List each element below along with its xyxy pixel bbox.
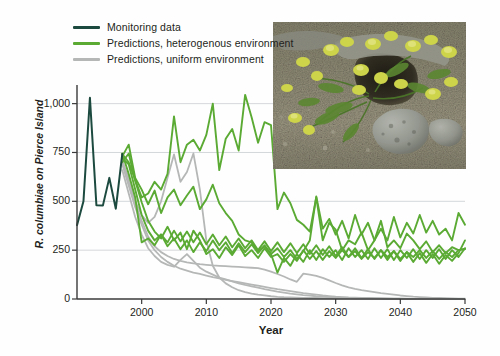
- inset-photo-graphic: [273, 22, 466, 169]
- legend-label-uniform: Predictions, uniform environment: [107, 53, 264, 65]
- x-tick-label: 2030: [313, 306, 359, 318]
- x-tick-label: 2050: [442, 306, 488, 318]
- legend-item-heterogenous: Predictions, heterogenous environment: [73, 36, 294, 50]
- x-tick-label: 2000: [119, 306, 165, 318]
- legend-label-monitoring: Monitoring data: [107, 21, 181, 33]
- legend-item-uniform: Predictions, uniform environment: [73, 52, 294, 66]
- y-tick-label: 0: [22, 292, 70, 304]
- series-uniform: [122, 153, 465, 298]
- y-tick-label: 500: [22, 194, 70, 206]
- figure-root: Monitoring data Predictions, heterogenou…: [0, 0, 500, 356]
- series-line: [122, 160, 465, 298]
- x-axis-title: Year: [77, 324, 465, 336]
- y-axis-title: R. columbiae on Pierce Island: [33, 94, 45, 254]
- y-tick-label: 750: [22, 145, 70, 157]
- inset-photo: [273, 22, 466, 169]
- y-tick-label: 250: [22, 243, 70, 255]
- series-line: [122, 153, 465, 261]
- x-tick-label: 2010: [183, 306, 229, 318]
- y-tick-label: 1,000: [22, 97, 70, 109]
- legend-swatch-uniform: [73, 58, 100, 61]
- legend-label-heterogenous: Predictions, heterogenous environment: [107, 37, 294, 49]
- x-tick-label: 2020: [248, 306, 294, 318]
- series-line: [77, 98, 122, 225]
- series-line: [122, 153, 465, 298]
- series-line: [122, 153, 465, 263]
- legend-item-monitoring: Monitoring data: [73, 20, 294, 34]
- legend-swatch-heterogenous: [73, 42, 100, 45]
- chart-legend: Monitoring data Predictions, heterogenou…: [73, 20, 294, 68]
- series-monitoring: [77, 98, 122, 225]
- legend-swatch-monitoring: [73, 26, 100, 29]
- x-tick-label: 2040: [377, 306, 423, 318]
